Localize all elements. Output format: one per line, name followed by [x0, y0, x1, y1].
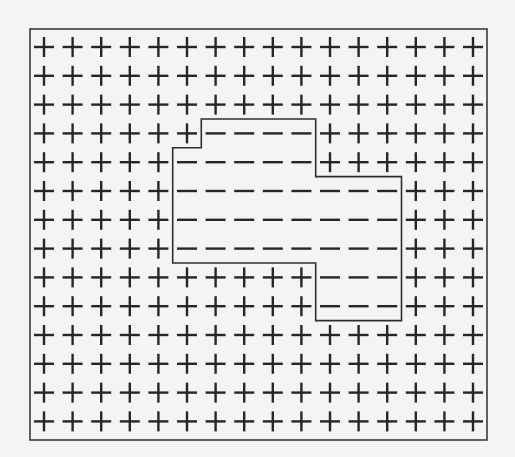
plus-sign-icon: [91, 296, 111, 316]
plus-sign-icon: [349, 383, 369, 403]
plus-sign-icon: [406, 152, 426, 172]
plus-sign-icon: [377, 95, 397, 115]
plus-sign-icon: [263, 267, 283, 287]
plus-sign-icon: [148, 267, 168, 287]
plus-sign-icon: [177, 325, 197, 345]
plus-sign-icon: [120, 152, 140, 172]
plus-sign-icon: [406, 37, 426, 57]
plus-sign-icon: [34, 95, 54, 115]
plus-sign-icon: [291, 354, 311, 374]
plus-sign-icon: [63, 354, 83, 374]
plus-sign-icon: [177, 411, 197, 431]
plus-sign-icon: [349, 95, 369, 115]
plus-sign-icon: [234, 267, 254, 287]
plus-sign-icon: [406, 354, 426, 374]
plus-sign-icon: [63, 181, 83, 201]
plus-sign-icon: [291, 267, 311, 287]
plus-sign-icon: [463, 66, 483, 86]
plus-sign-icon: [234, 411, 254, 431]
plus-sign-icon: [320, 123, 340, 143]
plus-sign-icon: [34, 296, 54, 316]
plus-sign-icon: [377, 66, 397, 86]
plus-sign-icon: [463, 296, 483, 316]
plus-sign-icon: [291, 411, 311, 431]
plus-sign-icon: [34, 123, 54, 143]
plus-sign-icon: [434, 95, 454, 115]
plus-sign-icon: [34, 325, 54, 345]
plus-sign-icon: [406, 325, 426, 345]
plus-sign-icon: [120, 37, 140, 57]
plus-sign-icon: [63, 296, 83, 316]
plus-sign-icon: [349, 37, 369, 57]
plus-sign-icon: [234, 37, 254, 57]
plus-sign-icon: [377, 152, 397, 172]
plus-sign-icon: [177, 123, 197, 143]
plus-sign-icon: [120, 354, 140, 374]
plus-sign-icon: [263, 325, 283, 345]
plus-sign-icon: [63, 123, 83, 143]
plus-sign-icon: [463, 152, 483, 172]
plus-sign-icon: [234, 383, 254, 403]
plus-sign-icon: [463, 411, 483, 431]
plus-sign-icon: [148, 239, 168, 259]
plus-sign-icon: [263, 37, 283, 57]
plus-sign-icon: [291, 296, 311, 316]
plus-sign-icon: [120, 296, 140, 316]
plus-sign-icon: [291, 37, 311, 57]
plus-sign-icon: [463, 267, 483, 287]
plus-sign-icon: [148, 152, 168, 172]
plus-sign-icon: [206, 267, 226, 287]
plus-sign-icon: [320, 325, 340, 345]
plus-sign-icon: [120, 239, 140, 259]
plus-sign-icon: [377, 325, 397, 345]
plus-sign-icon: [34, 210, 54, 230]
plus-sign-icon: [406, 95, 426, 115]
plus-sign-icon: [148, 95, 168, 115]
plus-sign-icon: [434, 37, 454, 57]
plus-sign-icon: [91, 95, 111, 115]
plus-sign-icon: [234, 66, 254, 86]
plus-sign-icon: [120, 411, 140, 431]
plus-sign-icon: [91, 354, 111, 374]
plus-sign-icon: [349, 123, 369, 143]
plus-sign-icon: [120, 267, 140, 287]
plus-sign-icon: [120, 325, 140, 345]
plus-sign-icon: [206, 354, 226, 374]
plus-sign-icon: [320, 354, 340, 374]
plus-sign-icon: [206, 383, 226, 403]
plus-sign-icon: [434, 354, 454, 374]
sign-grid-diagram: [0, 0, 515, 457]
plus-sign-icon: [91, 123, 111, 143]
plus-sign-icon: [177, 37, 197, 57]
plus-sign-icon: [148, 181, 168, 201]
plus-sign-icon: [177, 354, 197, 374]
plus-sign-icon: [263, 296, 283, 316]
plus-sign-icon: [263, 411, 283, 431]
plus-sign-icon: [291, 325, 311, 345]
plus-sign-icon: [263, 66, 283, 86]
plus-sign-icon: [34, 411, 54, 431]
plus-sign-icon: [177, 296, 197, 316]
plus-sign-icon: [291, 95, 311, 115]
plus-sign-icon: [434, 411, 454, 431]
plus-sign-icon: [320, 383, 340, 403]
plus-sign-icon: [406, 383, 426, 403]
plus-sign-icon: [206, 66, 226, 86]
plus-sign-icon: [434, 267, 454, 287]
plus-sign-icon: [206, 95, 226, 115]
plus-sign-icon: [177, 95, 197, 115]
plus-sign-icon: [406, 267, 426, 287]
plus-sign-icon: [406, 181, 426, 201]
plus-sign-icon: [63, 152, 83, 172]
plus-sign-icon: [34, 37, 54, 57]
plus-sign-icon: [434, 181, 454, 201]
plus-sign-icon: [120, 123, 140, 143]
plus-sign-icon: [406, 411, 426, 431]
plus-sign-icon: [148, 354, 168, 374]
plus-sign-icon: [463, 95, 483, 115]
plus-sign-icon: [463, 181, 483, 201]
outer-frame: [30, 29, 487, 440]
plus-sign-icon: [34, 354, 54, 374]
plus-sign-icon: [463, 354, 483, 374]
plus-sign-icon: [434, 325, 454, 345]
